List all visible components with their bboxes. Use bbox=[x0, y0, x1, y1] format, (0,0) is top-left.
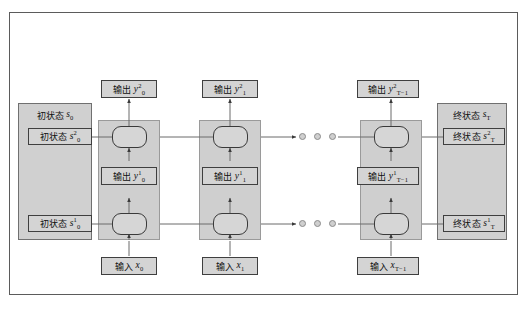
terminal-state-layer1-cjk: 终状态 bbox=[453, 217, 481, 230]
diagram-canvas: 初状态 s0 初状态 s20 初状态 s10 终状态 sT 终状态 s2T 终状… bbox=[0, 0, 528, 311]
rnn-cell-t0-layer2[interactable] bbox=[112, 126, 147, 148]
input-tT-1-var: xT−1 bbox=[388, 260, 407, 272]
ellipsis-dot-layer1-1 bbox=[299, 220, 306, 227]
output-t0-layer2-var: y20 bbox=[131, 82, 145, 96]
output-t1-layer2-var: y21 bbox=[232, 82, 246, 96]
initial-state-caption: 初状态 s0 bbox=[18, 108, 92, 122]
output-box-t0-layer1: 输出 y10 bbox=[101, 167, 157, 185]
terminal-state-layer1-box: 终状态 s1T bbox=[443, 215, 505, 232]
input-t1-var: x1 bbox=[234, 260, 244, 272]
input-box-t1: 输入 x1 bbox=[202, 257, 258, 275]
output-box-t0-layer2: 输出 y20 bbox=[101, 80, 157, 98]
output-tT-1-layer1-var: y1T−1 bbox=[386, 169, 408, 183]
rnn-cell-t0-layer1[interactable] bbox=[112, 213, 147, 235]
input-t0-var: x0 bbox=[133, 260, 143, 272]
output-t0-layer1-cjk: 输出 bbox=[113, 170, 131, 183]
initial-state-layer2-box: 初状态 s20 bbox=[28, 128, 92, 145]
output-box-t1-layer1: 输出 y11 bbox=[202, 167, 258, 185]
rnn-cell-tT-1-layer1[interactable] bbox=[374, 213, 409, 235]
terminal-state-caption-var: sT bbox=[480, 109, 490, 121]
output-t1-layer1-cjk: 输出 bbox=[214, 170, 232, 183]
output-tT-1-layer2-cjk: 输出 bbox=[368, 83, 386, 96]
initial-state-caption-cjk: 初状态 bbox=[37, 109, 64, 122]
initial-state-caption-var: s0 bbox=[64, 109, 73, 121]
terminal-state-layer2-var: s2T bbox=[481, 129, 495, 143]
input-box-t0: 输入 x0 bbox=[101, 257, 157, 275]
output-tT-1-layer1-cjk: 输出 bbox=[368, 170, 386, 183]
output-t1-layer2-cjk: 输出 bbox=[214, 83, 232, 96]
initial-state-layer2-cjk: 初状态 bbox=[40, 130, 68, 143]
terminal-state-caption: 终状态 sT bbox=[437, 108, 507, 122]
rnn-cell-t1-layer1[interactable] bbox=[213, 213, 248, 235]
output-tT-1-layer2-var: y2T−1 bbox=[386, 82, 408, 96]
output-box-tT-1-layer1: 输出 y1T−1 bbox=[357, 167, 419, 185]
input-t1-cjk: 输入 bbox=[216, 260, 234, 273]
terminal-state-layer2-cjk: 终状态 bbox=[453, 130, 481, 143]
initial-state-layer1-var: s10 bbox=[67, 216, 80, 230]
ellipsis-dot-layer1-3 bbox=[329, 220, 336, 227]
terminal-state-layer1-var: s1T bbox=[481, 216, 495, 230]
input-t0-cjk: 输入 bbox=[115, 260, 133, 273]
ellipsis-dot-layer1-2 bbox=[314, 220, 321, 227]
ellipsis-dot-layer2-2 bbox=[314, 133, 321, 140]
ellipsis-dot-layer2-3 bbox=[329, 133, 336, 140]
initial-state-layer2-var: s20 bbox=[67, 129, 80, 143]
initial-state-layer1-cjk: 初状态 bbox=[40, 217, 68, 230]
output-t0-layer2-cjk: 输出 bbox=[113, 83, 131, 96]
terminal-state-caption-cjk: 终状态 bbox=[453, 109, 480, 122]
input-tT-1-cjk: 输入 bbox=[370, 260, 388, 273]
output-box-tT-1-layer2: 输出 y2T−1 bbox=[357, 80, 419, 98]
rnn-cell-t1-layer2[interactable] bbox=[213, 126, 248, 148]
output-box-t1-layer2: 输出 y21 bbox=[202, 80, 258, 98]
output-t0-layer1-var: y10 bbox=[131, 169, 145, 183]
output-t1-layer1-var: y11 bbox=[232, 169, 246, 183]
initial-state-layer1-box: 初状态 s10 bbox=[28, 215, 92, 232]
input-box-tT-1: 输入 xT−1 bbox=[357, 257, 419, 275]
ellipsis-dot-layer2-1 bbox=[299, 133, 306, 140]
rnn-cell-tT-1-layer2[interactable] bbox=[374, 126, 409, 148]
terminal-state-layer2-box: 终状态 s2T bbox=[443, 128, 505, 145]
